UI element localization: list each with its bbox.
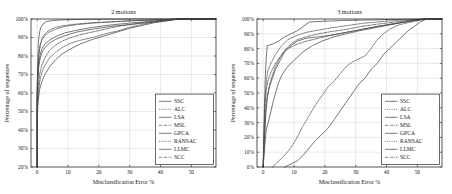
legend-label-scc: SCC xyxy=(174,154,185,160)
legend-label-gpca: GPCA xyxy=(400,130,415,136)
x-axis-label: Misclassification Error % xyxy=(93,179,155,185)
legend-label-ssc: SSC xyxy=(174,98,184,104)
y-axis-label: Percentage of sequences xyxy=(4,63,10,122)
legend-label-msl: MSL xyxy=(174,122,186,128)
legend-label-ransac: RANSAC xyxy=(400,138,423,144)
x-tick-label: 30 xyxy=(353,169,359,175)
chart-title: 3 motions xyxy=(337,8,362,15)
y-tick-label: 80% xyxy=(244,46,254,52)
x-tick-label: 50 xyxy=(189,169,195,175)
y-tick-label: 80% xyxy=(18,53,28,59)
chart-panel-2-motions: 2 motions0102030405020%30%40%50%60%70%80… xyxy=(0,0,226,194)
y-tick-label: 100% xyxy=(241,16,254,22)
y-tick-label: 50% xyxy=(18,108,28,114)
y-tick-label: 30% xyxy=(244,120,254,126)
chart-panel-3-motions: 3 motions010203040500%10%20%30%40%50%60%… xyxy=(226,0,452,194)
y-tick-label: 20% xyxy=(244,134,254,140)
chart-svg: 3 motions010203040500%10%20%30%40%50%60%… xyxy=(226,0,452,194)
x-tick-label: 0 xyxy=(36,169,39,175)
y-tick-label: 0% xyxy=(247,164,255,170)
y-tick-label: 20% xyxy=(18,164,28,170)
x-tick-label: 30 xyxy=(127,169,133,175)
legend-label-alc: ALC xyxy=(174,106,185,112)
legend-label-llmc: LLMC xyxy=(174,146,190,152)
legend-label-gpca: GPCA xyxy=(174,130,189,136)
legend-label-llmc: LLMC xyxy=(400,146,416,152)
legend-label-ransac: RANSAC xyxy=(174,138,197,144)
y-tick-label: 30% xyxy=(18,145,28,151)
x-tick-label: 40 xyxy=(158,169,164,175)
chart-svg: 2 motions0102030405020%30%40%50%60%70%80… xyxy=(0,0,226,194)
x-tick-label: 10 xyxy=(65,169,71,175)
y-tick-label: 40% xyxy=(18,127,28,133)
legend-label-ssc: SSC xyxy=(400,98,410,104)
x-tick-label: 20 xyxy=(322,169,328,175)
x-tick-label: 0 xyxy=(262,169,265,175)
x-axis-label: Misclassification Error % xyxy=(319,179,381,185)
legend-label-scc: SCC xyxy=(400,154,411,160)
legend-label-msl: MSL xyxy=(400,122,412,128)
y-tick-label: 60% xyxy=(244,75,254,81)
y-tick-label: 70% xyxy=(244,60,254,66)
legend-label-lsa: LSA xyxy=(174,114,185,120)
x-tick-label: 10 xyxy=(291,169,297,175)
y-tick-label: 60% xyxy=(18,90,28,96)
y-tick-label: 10% xyxy=(244,149,254,155)
y-tick-label: 90% xyxy=(18,34,28,40)
y-tick-label: 50% xyxy=(244,90,254,96)
y-axis-label: Percentage of sequences xyxy=(230,63,236,122)
legend-label-lsa: LSA xyxy=(400,114,411,120)
y-tick-label: 70% xyxy=(18,71,28,77)
x-tick-label: 50 xyxy=(415,169,421,175)
x-tick-label: 40 xyxy=(384,169,390,175)
figure-root: 2 motions0102030405020%30%40%50%60%70%80… xyxy=(0,0,452,194)
chart-legend: SSCALCLSAMSLGPCARANSACLLMCSCC xyxy=(382,94,440,164)
x-tick-label: 20 xyxy=(96,169,102,175)
chart-legend: SSCALCLSAMSLGPCARANSACLLMCSCC xyxy=(156,94,214,164)
legend-label-alc: ALC xyxy=(400,106,411,112)
y-tick-label: 100% xyxy=(15,16,28,22)
chart-title: 2 motions xyxy=(111,8,136,15)
y-tick-label: 40% xyxy=(244,105,254,111)
y-tick-label: 90% xyxy=(244,31,254,37)
